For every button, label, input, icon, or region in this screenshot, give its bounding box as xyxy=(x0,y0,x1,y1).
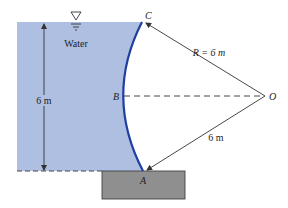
point-o-label: O xyxy=(269,91,276,102)
point-c-label: C xyxy=(145,10,152,21)
radius-label-lower: 6 m xyxy=(208,132,224,143)
radius-line-lower xyxy=(147,96,265,170)
radius-label: R = 6 m xyxy=(192,47,226,58)
radius-line-upper xyxy=(146,23,265,96)
curved-gate-diagram: Water 6 m C B A O R = 6 m 6 m xyxy=(0,0,288,208)
point-a-label: A xyxy=(139,175,147,186)
depth-label: 6 m xyxy=(36,95,52,106)
point-b-label: B xyxy=(113,91,119,102)
fluid-label: Water xyxy=(64,38,88,49)
